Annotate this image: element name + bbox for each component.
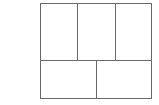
panel-bottom-right	[96, 60, 152, 99]
panel-bottom-left	[40, 60, 97, 99]
panel-top-middle	[77, 3, 116, 61]
panel-top-right	[115, 3, 152, 61]
panel-top-left	[40, 3, 78, 61]
